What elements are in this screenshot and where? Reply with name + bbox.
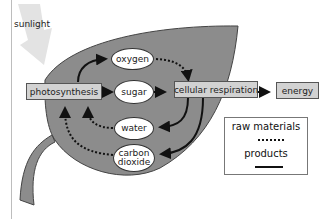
- sunlight-label: sunlight: [14, 19, 50, 29]
- leaf-stem: [20, 135, 55, 205]
- legend-dotted-line-icon: [258, 139, 284, 141]
- legend: raw materials products: [224, 117, 308, 175]
- sunlight-arrow-icon: [18, 4, 52, 65]
- cellular-respiration-box: cellular respiration: [174, 81, 258, 98]
- legend-solid-line-icon: [255, 166, 283, 168]
- sugar-oval: sugar: [114, 80, 154, 104]
- energy-box: energy: [276, 82, 319, 99]
- water-oval: water: [114, 117, 154, 140]
- carbon-dioxide-oval: carbon dioxide: [113, 144, 155, 172]
- legend-raw-materials-label: raw materials: [225, 121, 307, 132]
- oxygen-oval: oxygen: [111, 48, 154, 70]
- carbon-dioxide-line2: dioxide: [118, 158, 151, 167]
- diagram-graphics: [0, 0, 329, 219]
- photosynthesis-box: photosynthesis: [26, 83, 102, 100]
- legend-products-label: products: [225, 148, 307, 159]
